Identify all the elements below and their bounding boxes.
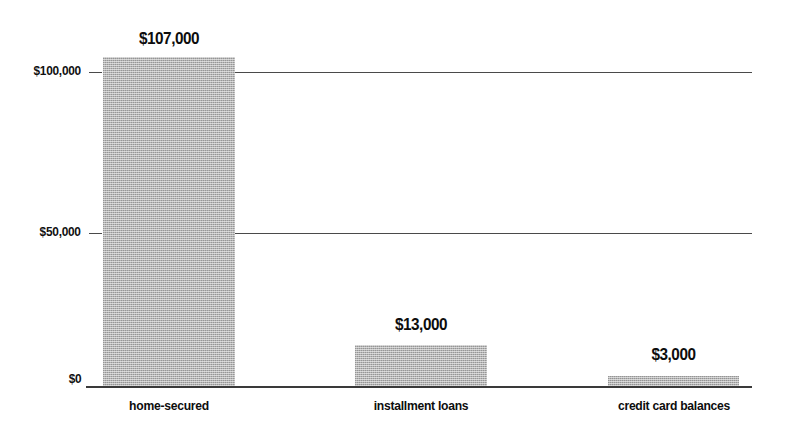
x-category-label-installment-loans: installment loans: [349, 398, 493, 413]
bar-home-secured: [103, 57, 235, 386]
y-tick-label-100000: $100,000: [34, 63, 81, 78]
bar-credit-card-balances: [608, 376, 739, 386]
x-category-label-home-secured: home-secured: [101, 398, 238, 413]
x-axis-line: [86, 386, 752, 388]
y-tick-mark-50000: [89, 233, 102, 234]
x-category-label-credit-card-balances: credit card balances: [597, 398, 752, 413]
y-tick-label-100000-wrap: $100,000: [0, 63, 86, 81]
bar-value-label-home-secured: $107,000: [110, 29, 229, 49]
y-tick-label-0-wrap: $0: [0, 371, 86, 389]
bar-value-label-installment-loans: $13,000: [362, 315, 481, 335]
y-tick-label-50000-wrap: $50,000: [0, 224, 86, 242]
y-tick-label-0: $0: [68, 371, 81, 386]
bar-value-label-credit-card-balances: $3,000: [615, 345, 733, 365]
bar-chart: $100,000 $50,000 $0 $107,000 $13,000 $3,…: [0, 0, 788, 444]
y-tick-mark-100000: [89, 72, 102, 73]
bar-installment-loans: [355, 345, 487, 386]
y-tick-label-50000: $50,000: [40, 224, 81, 239]
